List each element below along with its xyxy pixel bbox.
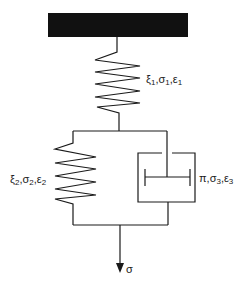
- top-spring-label: ξ1,σ1,ε1: [146, 74, 182, 87]
- parallel-spring: [55, 131, 96, 225]
- fixed-support: [48, 13, 188, 37]
- dashpot: [138, 131, 195, 225]
- top-spring: [95, 37, 140, 131]
- dashpot-label: π,σ3,ε3: [199, 173, 233, 186]
- output-arrow-head-icon: [116, 263, 124, 273]
- rheological-model-diagram: [0, 0, 243, 289]
- parallel-spring-label: ξ2,σ2,ε2: [10, 174, 46, 187]
- output-stress-label: σ: [126, 264, 133, 275]
